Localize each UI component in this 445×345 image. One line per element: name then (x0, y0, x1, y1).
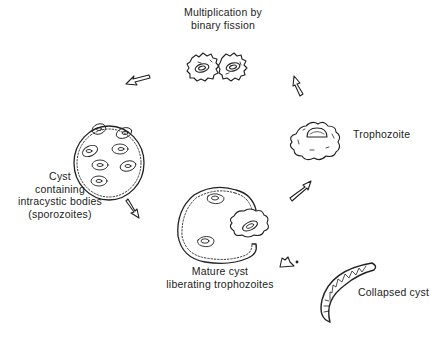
trophozoite-nucleus (307, 128, 327, 137)
sporozoite (119, 159, 137, 173)
emerging-trophozoite-body (230, 209, 268, 237)
fission-nucleus-right (225, 61, 241, 72)
label-collapsed-cyst: Collapsed cyst (358, 286, 429, 299)
label-mature-cyst-line1: Mature cyst (155, 265, 285, 278)
label-fission: Multiplication by binary fission (163, 6, 283, 31)
label-cyst-line4: (sporozoites) (10, 208, 110, 221)
label-trophozoite: Trophozoite (353, 128, 410, 141)
label-mature-cyst: Mature cyst liberating trophozoites (155, 265, 285, 290)
sporozoite-nucleus (97, 128, 102, 131)
sporozoite-nucleus (118, 148, 124, 151)
sporozoite (92, 160, 108, 170)
fission-nucleus-left (194, 62, 210, 73)
mature-cyst-wall-inner (182, 191, 252, 260)
trophozoite (290, 122, 339, 159)
label-fission-line1: Multiplication by (163, 6, 283, 19)
intracyst-trophozoite (198, 236, 215, 246)
emerging-trophozoite (230, 209, 268, 237)
arrow-fission-to-cyst (126, 75, 150, 85)
sporozoite-nucleus (86, 150, 92, 153)
trophozoite-nucleus-detail (310, 132, 324, 135)
intracyst-nucleus (212, 196, 219, 200)
label-cyst-line1: Cyst (10, 170, 110, 183)
dot-marker (296, 261, 298, 263)
sporozoite-nucleus (97, 164, 103, 167)
label-mature-cyst-line2: liberating trophozoites (155, 278, 285, 291)
intracyst-nucleus (201, 239, 209, 243)
mature-cyst-trophozoites (198, 194, 225, 247)
sporozoite (81, 143, 100, 159)
label-cyst-line2: containing (10, 183, 110, 196)
mature-cyst (178, 187, 269, 263)
fission-cell-right (218, 53, 247, 81)
arrow-cyst-to-mature-cyst (126, 199, 139, 218)
label-cyst-line3: intracystic bodies (10, 195, 110, 208)
fission-cell-left (187, 53, 219, 81)
arrow-mature-cyst-to-trophozoite (290, 181, 311, 201)
intracyst-trophozoite (207, 194, 224, 204)
fission-nucleus-inner-right (229, 64, 237, 69)
label-cyst: Cyst containing intracystic bodies (spor… (10, 170, 110, 220)
arrow-trophozoite-to-fission (293, 76, 303, 96)
sporozoite (112, 144, 128, 154)
binary-fission-cells (187, 53, 247, 81)
emerging-trophozoite-nucleus (241, 219, 259, 233)
sporozoite (91, 122, 108, 136)
sporozoite-nucleus (125, 165, 131, 168)
fission-nucleus-inner-left (198, 65, 206, 70)
trophozoite-cytoplasm-marks (298, 129, 334, 150)
label-fission-line2: binary fission (163, 19, 283, 32)
sporozoite-nucleus (122, 132, 128, 135)
